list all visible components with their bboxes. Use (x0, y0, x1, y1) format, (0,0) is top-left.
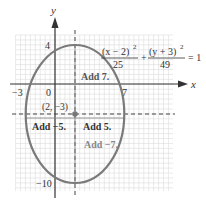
tick-x-left: −3 (12, 87, 23, 98)
eq-term2-den: 49 (160, 59, 170, 70)
annotation-add-up: Add 7. (81, 71, 110, 82)
eq-term1-den: 25 (113, 59, 123, 70)
annotation-add-left: Add −5. (32, 121, 67, 132)
center-label: (2, −3) (42, 102, 68, 113)
tick-y-bottom: −10 (36, 178, 52, 189)
equation: (x − 2) 2 25 + (y + 3) 2 49 = 1 (101, 43, 201, 70)
tick-origin: 0 (46, 87, 51, 98)
eq-term2-num: (y + 3) (149, 46, 176, 58)
eq-term1-exp: 2 (133, 43, 137, 51)
x-axis-label: x (190, 78, 196, 90)
tick-x-right: 7 (122, 87, 127, 98)
annotation-add-right: Add 5. (83, 121, 112, 132)
eq-rhs: = 1 (188, 52, 201, 63)
eq-term2-exp: 2 (180, 43, 184, 51)
center-point (72, 111, 78, 117)
x-axis-arrow-icon (178, 81, 188, 88)
grid (16, 35, 173, 191)
annotation-add-down: Add −7. (84, 139, 119, 150)
y-axis-label: y (50, 4, 56, 16)
tick-y-top: 4 (45, 40, 50, 51)
eq-term1-num: (x − 2) (102, 46, 129, 58)
eq-plus: + (141, 52, 147, 63)
ellipse-chart: x y 4 −3 0 7 −10 (2, −3) Add 7. Add −5. … (0, 0, 206, 205)
y-axis-arrow-icon (52, 17, 59, 28)
axes (10, 17, 188, 198)
